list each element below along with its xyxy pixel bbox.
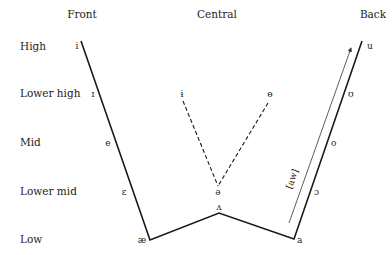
vowel-chart: Front Central Back High Lower high Mid L…: [0, 0, 392, 255]
row-label-high: High: [20, 40, 46, 52]
row-label-low: Low: [20, 233, 42, 245]
vowel-front-lower-mid: ɛ: [122, 187, 127, 197]
vowel-central-lower-high-left: ɨ: [181, 89, 184, 99]
aw-arrow: [289, 48, 351, 223]
vowel-back-lower-high: ʊ: [348, 89, 354, 99]
vowel-back-high: u: [367, 41, 373, 51]
vowel-front-mid: e: [105, 138, 110, 148]
row-label-lower-mid: Lower mid: [20, 185, 77, 197]
vowel-back-mid: o: [331, 138, 336, 148]
column-label-central: Central: [197, 8, 238, 20]
row-label-lower-high: Lower high: [20, 87, 81, 99]
vowel-central-low: ʌ: [215, 202, 222, 212]
vowel-back-lower-mid: ɔ: [314, 187, 319, 197]
vowel-front-lower-high: ɪ: [92, 89, 95, 99]
dashed-line-left: [183, 101, 218, 186]
vowel-central-lower-high-right: ɵ: [267, 89, 272, 99]
vowel-central-lower-mid: ə: [215, 187, 220, 197]
row-label-mid: Mid: [20, 136, 41, 148]
dashed-line-right: [218, 103, 268, 186]
aw-arrow-label: [aw]: [284, 168, 300, 190]
vowel-back-low: a: [297, 235, 303, 245]
column-label-back: Back: [360, 8, 387, 20]
vowel-front-low: æ: [138, 235, 146, 245]
vowel-front-high: i: [76, 41, 79, 51]
column-label-front: Front: [67, 8, 97, 20]
